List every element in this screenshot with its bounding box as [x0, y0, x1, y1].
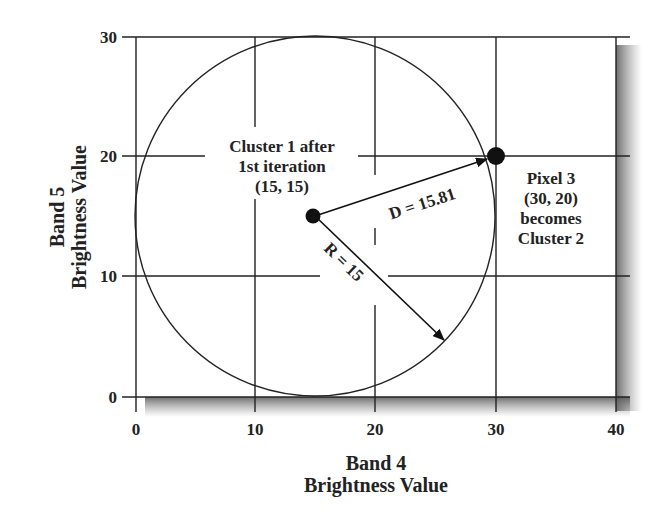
cluster1-point	[306, 209, 321, 224]
svg-text:Pixel 3: Pixel 3	[527, 169, 576, 188]
svg-text:30: 30	[488, 420, 505, 439]
svg-text:(30, 20): (30, 20)	[524, 189, 578, 208]
svg-text:Cluster 1 after: Cluster 1 after	[229, 137, 335, 156]
x-axis-title-line2: Brightness Value	[236, 474, 516, 496]
y-axis-title-line1: Band 5	[46, 107, 68, 327]
svg-text:(15, 15): (15, 15)	[255, 177, 309, 196]
x-axis-title-line1: Band 4	[236, 452, 516, 474]
svg-text:0: 0	[132, 420, 141, 439]
pixel3-label: Pixel 3 (30, 20) becomes Cluster 2	[518, 169, 584, 248]
svg-text:20: 20	[100, 147, 117, 166]
x-axis-title: Band 4 Brightness Value	[236, 452, 516, 496]
svg-text:10: 10	[247, 420, 264, 439]
svg-text:40: 40	[608, 420, 625, 439]
y-axis-title-line2: Brightness Value	[68, 107, 90, 327]
svg-text:1st iteration: 1st iteration	[238, 157, 326, 176]
svg-text:Cluster 2: Cluster 2	[518, 229, 584, 248]
y-tick-labels: 30 20 10 0	[100, 28, 117, 407]
x-tick-labels: 0 10 20 30 40	[132, 420, 625, 439]
svg-text:10: 10	[100, 267, 117, 286]
svg-text:becomes: becomes	[520, 209, 582, 228]
svg-text:0: 0	[109, 388, 118, 407]
y-axis-title: Band 5 Brightness Value	[46, 107, 90, 327]
svg-text:30: 30	[100, 28, 117, 47]
svg-text:20: 20	[367, 420, 384, 439]
pixel3-point	[487, 147, 505, 165]
cluster-diagram: 30 20 10 0 0 10 20 30 40 Cluster 1 after…	[0, 0, 661, 518]
